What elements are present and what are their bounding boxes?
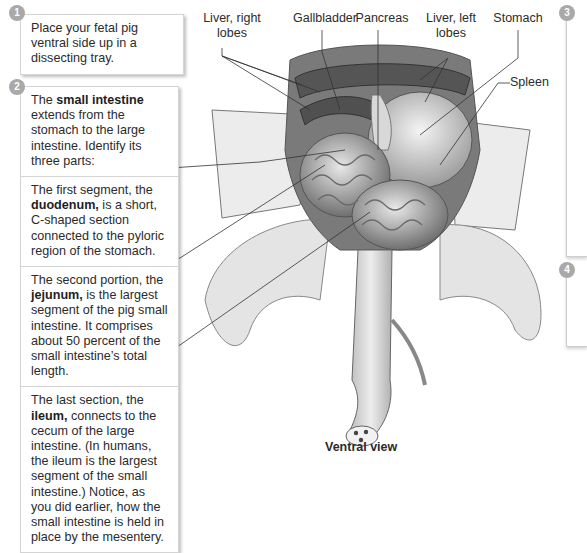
- label-pancreas: Pancreas: [352, 11, 412, 26]
- step-1-text: Place your fetal pig ventral side up in …: [31, 21, 173, 67]
- step-2-box: The small intestine extends from the sto…: [20, 86, 179, 553]
- label-spleen: Spleen: [510, 75, 560, 90]
- figure-caption: Ventral view: [325, 440, 397, 454]
- term-ileum: ileum,: [31, 409, 67, 423]
- ileum-section: The last section, the ileum, connects to…: [21, 386, 178, 552]
- step-badge-4: 4: [559, 262, 575, 278]
- small-intestine-intro: The small intestine extends from the sto…: [21, 87, 178, 176]
- term-small-intestine: small intestine: [56, 93, 144, 107]
- step-1-box: Place your fetal pig ventral side up in …: [20, 14, 184, 75]
- step-badge-3: 3: [559, 5, 575, 21]
- step-badge-2: 2: [9, 79, 25, 95]
- step-badge-1: 1: [9, 5, 25, 21]
- label-liver-left-lobes: Liver, left lobes: [420, 11, 482, 41]
- label-liver-right-lobes: Liver, right lobes: [194, 11, 270, 41]
- step-3-box: [566, 18, 587, 257]
- term-jejunum: jejunum,: [31, 288, 83, 302]
- jejunum-section: The second portion, the jejunum, is the …: [21, 266, 178, 386]
- label-stomach: Stomach: [490, 11, 546, 26]
- duodenum-section: The first segment, the duodenum, is a sh…: [21, 176, 178, 266]
- step-4-box: [566, 276, 587, 347]
- term-duodenum: duodenum,: [31, 198, 99, 212]
